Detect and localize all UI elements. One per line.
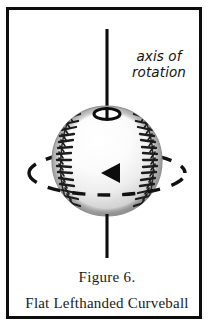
axis-label-line-1: axis of [113, 48, 205, 64]
figure-frame: axis of rotation Figure 6. Flat Lefthand… [6, 7, 202, 319]
figure-caption: Figure 6. Flat Lefthanded Curveball [9, 268, 205, 313]
axis-label-line-2: rotation [113, 64, 205, 80]
caption-subtitle: Flat Lefthanded Curveball [9, 294, 205, 313]
axis-of-rotation-label: axis of rotation [113, 48, 205, 80]
caption-title: Figure 6. [9, 268, 205, 287]
